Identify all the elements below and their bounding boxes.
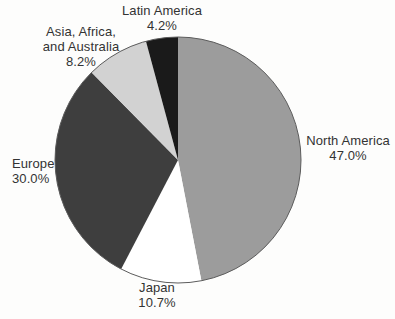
label-north-america-name: North America bbox=[288, 133, 395, 148]
label-japan: Japan 10.7% bbox=[107, 280, 207, 310]
label-north-america-pct: 47.0% bbox=[288, 148, 395, 163]
pie-chart-figure: Latin America 4.2% Asia, Africa, and Aus… bbox=[0, 0, 395, 319]
label-europe: Europe 30.0% bbox=[12, 156, 92, 186]
pie-slice-north-america bbox=[178, 37, 301, 281]
label-japan-name: Japan bbox=[107, 280, 207, 295]
label-asia-africa-australia: Asia, Africa, and Australia 8.2% bbox=[26, 24, 136, 69]
label-japan-pct: 10.7% bbox=[107, 295, 207, 310]
label-latin-america-name: Latin America bbox=[112, 3, 212, 18]
label-asia-africa-australia-name-line1: Asia, Africa, bbox=[26, 24, 136, 39]
label-north-america: North America 47.0% bbox=[288, 133, 395, 163]
label-europe-name: Europe bbox=[12, 156, 92, 171]
label-asia-africa-australia-pct: 8.2% bbox=[26, 54, 136, 69]
label-asia-africa-australia-name-line2: and Australia bbox=[26, 39, 136, 54]
label-europe-pct: 30.0% bbox=[12, 171, 92, 186]
